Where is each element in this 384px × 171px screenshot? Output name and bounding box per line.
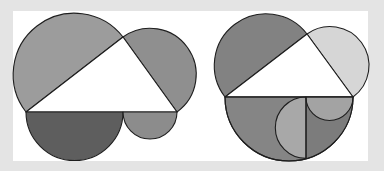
left-figure [13,13,196,160]
geometry-diagram [0,0,384,171]
left-base-semicircle-small [123,112,177,139]
right-figure [214,14,369,161]
left-base-semicircle-large [26,112,123,161]
